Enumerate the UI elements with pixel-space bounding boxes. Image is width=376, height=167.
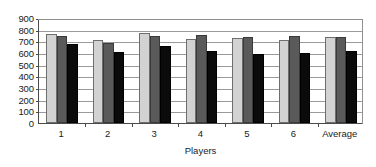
bar[interactable]: [325, 37, 336, 123]
x-axis-title: Players: [38, 145, 363, 157]
bar[interactable]: [67, 44, 78, 123]
x-axis-tick-labels: 123456Average: [38, 128, 363, 142]
bar[interactable]: [103, 43, 114, 124]
y-axis-tick-label: 0: [0, 119, 34, 129]
bar[interactable]: [114, 52, 125, 123]
y-axis-tick-label: 200: [0, 96, 34, 106]
bar[interactable]: [57, 36, 68, 123]
x-axis-tick-label: Average: [317, 128, 363, 140]
x-axis-tick-mark: [225, 123, 226, 127]
x-axis-tick-label: 1: [38, 128, 84, 140]
y-axis-tick-label: 800: [0, 26, 34, 36]
x-axis-tick-label: 5: [224, 128, 270, 140]
x-axis-tick-mark: [132, 123, 133, 127]
y-axis-tick-label: 100: [0, 107, 34, 117]
bar-series-layer: [39, 19, 363, 123]
bar[interactable]: [160, 46, 171, 123]
bar-group: [93, 19, 125, 123]
x-axis-tick-mark: [178, 123, 179, 127]
bar[interactable]: [186, 39, 197, 123]
bar[interactable]: [46, 34, 57, 123]
bar[interactable]: [232, 38, 243, 123]
x-axis-tick-mark: [318, 123, 319, 127]
bar[interactable]: [279, 40, 290, 123]
bar-group: [232, 19, 264, 123]
bar[interactable]: [253, 54, 264, 123]
y-axis-tick-label: 900: [0, 14, 34, 24]
bar-chart: 9008007006005004003002001000 123456Avera…: [0, 0, 376, 167]
bar[interactable]: [93, 40, 104, 123]
bar-group: [46, 19, 78, 123]
y-axis-tick-label: 500: [0, 61, 34, 71]
bar[interactable]: [336, 37, 347, 123]
bar-group: [325, 19, 357, 123]
bar[interactable]: [196, 35, 207, 123]
x-axis-tick-label: 4: [177, 128, 223, 140]
bar[interactable]: [289, 36, 300, 123]
bar[interactable]: [150, 36, 161, 124]
x-axis-tick-label: 3: [131, 128, 177, 140]
bar[interactable]: [243, 37, 254, 123]
bar[interactable]: [300, 53, 311, 123]
bar[interactable]: [139, 33, 150, 123]
bar-group: [279, 19, 311, 123]
y-axis-tick-label: 600: [0, 49, 34, 59]
x-axis-tick-mark: [271, 123, 272, 127]
bar[interactable]: [346, 51, 357, 123]
plot-area: [38, 19, 363, 124]
y-axis-tick-label: 700: [0, 37, 34, 47]
bar-group: [139, 19, 171, 123]
bar-group: [186, 19, 218, 123]
y-axis-tick-label: 300: [0, 84, 34, 94]
y-axis-tick-labels: 9008007006005004003002001000: [0, 0, 34, 167]
bar[interactable]: [207, 51, 218, 123]
x-axis-tick-label: 6: [270, 128, 316, 140]
x-axis-tick-mark: [85, 123, 86, 127]
x-axis-tick-label: 2: [84, 128, 130, 140]
y-axis-tick-label: 400: [0, 72, 34, 82]
